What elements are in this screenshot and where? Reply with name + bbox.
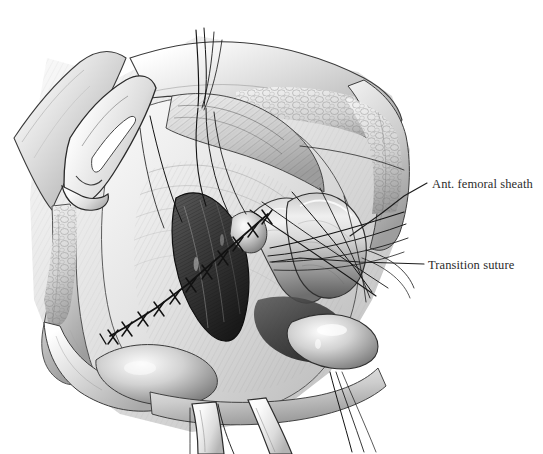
illustration-canvas: Ant. femoral sheath Transition suture [0, 0, 543, 454]
label-transition-suture: Transition suture [428, 258, 515, 272]
label-ant-femoral-sheath: Ant. femoral sheath [432, 177, 533, 191]
surgical-illustration-figure: Ant. femoral sheath Transition suture [0, 0, 543, 454]
